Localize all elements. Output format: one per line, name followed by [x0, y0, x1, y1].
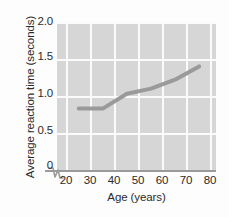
reaction-time-line-chart: 2.0 1.5 1.0 0.5 0 20 30 40 50 60 70 80 A…: [0, 0, 229, 217]
plot-area: [57, 22, 216, 170]
x-axis-title: Age (years): [57, 191, 216, 203]
y-axis-title: Average reaction time (seconds): [24, 7, 36, 187]
series-line-average-reaction-time: [57, 22, 216, 170]
x-axis-line: [45, 170, 216, 172]
x-tick-80: 80: [195, 174, 225, 187]
